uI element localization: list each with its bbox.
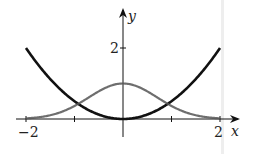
y-tick-label-2: 2 — [110, 40, 119, 56]
x-tick-label-max: 2 — [214, 124, 223, 140]
x-axis-label: x — [231, 123, 239, 139]
y-axis-label: y — [127, 8, 137, 24]
x-tick-label-min: −2 — [18, 124, 39, 140]
plot-area: y x 2 −2 2 — [0, 0, 256, 154]
